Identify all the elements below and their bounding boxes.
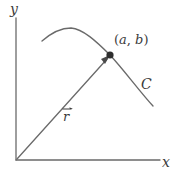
curve-label-c: C: [141, 77, 152, 91]
position-vector-label: r: [63, 110, 69, 123]
point-marker-group: [106, 51, 113, 58]
paren-close: ): [143, 32, 148, 47]
x-axis-label: x: [162, 155, 170, 169]
vector-r-letter: r: [63, 109, 69, 124]
point-coordinate-label: (a, b): [114, 33, 149, 46]
y-axis-label: y: [10, 2, 18, 16]
point-ab-dot: [106, 51, 113, 58]
vector-curve-figure: y x C (a, b) r: [0, 0, 177, 177]
vector-r-glyph: r: [63, 110, 69, 123]
position-vector-group: [17, 55, 110, 159]
coordinate-comma: ,: [127, 32, 135, 47]
position-vector-line: [17, 59, 107, 159]
coordinate-a: a: [119, 32, 127, 47]
